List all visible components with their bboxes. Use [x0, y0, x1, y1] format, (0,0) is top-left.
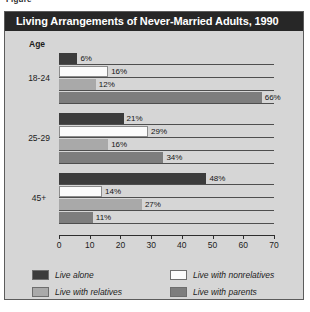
bar [59, 126, 148, 137]
figure-root: Figure Living Arrangements of Never-Marr… [0, 0, 310, 312]
x-axis-tick-label: 10 [85, 240, 94, 250]
bar [59, 53, 77, 64]
bar-value-label: 16% [111, 140, 127, 149]
bar [59, 199, 142, 210]
bar-baseline [59, 163, 274, 164]
bar-group: 45+48%14%27%11% [5, 173, 305, 225]
x-axis-tick [243, 235, 244, 239]
bar-baseline [59, 184, 274, 185]
y-axis-title: Age [29, 39, 45, 49]
x-axis-tick [120, 235, 121, 239]
bar [59, 66, 108, 77]
x-axis-tick-label: 50 [208, 240, 217, 250]
legend-swatch [32, 270, 49, 280]
bar-value-label: 12% [99, 80, 115, 89]
bar-baseline [59, 103, 274, 104]
bar [59, 186, 102, 197]
bar-value-label: 11% [96, 213, 111, 222]
bar-value-label: 16% [111, 67, 127, 76]
bar-baseline [59, 210, 274, 211]
x-axis-tick-label: 30 [146, 240, 155, 250]
x-axis-tick [151, 235, 152, 239]
chart-panel: Living Arrangements of Never-Married Adu… [4, 11, 304, 300]
bar-group: 25-2921%29%16%34% [5, 113, 305, 165]
legend-label: Live alone [55, 270, 94, 280]
x-axis-tick-label: 40 [177, 240, 186, 250]
legend-label: Live with nonrelatives [193, 270, 274, 280]
bar [59, 152, 163, 163]
bar-value-label: 27% [145, 200, 161, 209]
group-label: 18-24 [21, 73, 57, 83]
bar-baseline [59, 77, 274, 78]
bar-value-label: 34% [166, 153, 182, 162]
plot-body: Age 18-246%16%12%66%25-2921%29%16%34%45+… [5, 31, 303, 299]
bar-value-label: 14% [105, 187, 121, 196]
bar-value-label: 66% [265, 93, 281, 102]
chart-title: Living Arrangements of Never-Married Adu… [16, 15, 279, 27]
bar-baseline [59, 137, 274, 138]
x-axis-tick-label: 20 [116, 240, 125, 250]
plot-area: 18-246%16%12%66%25-2921%29%16%34%45+48%1… [5, 53, 305, 235]
chart-title-bar: Living Arrangements of Never-Married Adu… [5, 12, 303, 31]
bar [59, 139, 108, 150]
legend-swatch [170, 287, 187, 297]
bar [59, 92, 262, 103]
x-axis-tick [274, 235, 275, 239]
chart-legend: Live aloneLive with nonrelativesLive wit… [32, 269, 278, 303]
x-axis-tick [59, 235, 60, 239]
legend-label: Live with parents [193, 287, 257, 297]
x-axis-tick [213, 235, 214, 239]
x-axis-tick-label: 0 [57, 240, 62, 250]
bar-baseline [59, 64, 274, 65]
bar [59, 79, 96, 90]
figure-caption: Figure [6, 0, 32, 4]
bar-value-label: 48% [209, 174, 225, 183]
x-axis-tick-label: 60 [239, 240, 248, 250]
bar-baseline [59, 90, 274, 91]
legend-swatch [32, 287, 49, 297]
legend-swatch [170, 270, 187, 280]
x-axis-tick-label: 70 [269, 240, 278, 250]
bar-baseline [59, 124, 274, 125]
x-axis: 010203040506070 [59, 235, 274, 236]
bar-value-label: 6% [80, 54, 92, 63]
bar-baseline [59, 197, 274, 198]
bar-value-label: 29% [151, 127, 167, 136]
x-axis-tick [182, 235, 183, 239]
group-label: 45+ [21, 193, 57, 203]
bar [59, 212, 93, 223]
legend-label: Live with relatives [55, 287, 122, 297]
bar-group: 18-246%16%12%66% [5, 53, 305, 105]
group-label: 25-29 [21, 133, 57, 143]
bar-value-label: 21% [127, 114, 143, 123]
bar [59, 113, 124, 124]
bar-baseline [59, 223, 274, 224]
bar-baseline [59, 150, 274, 151]
x-axis-tick [90, 235, 91, 239]
bar [59, 173, 206, 184]
